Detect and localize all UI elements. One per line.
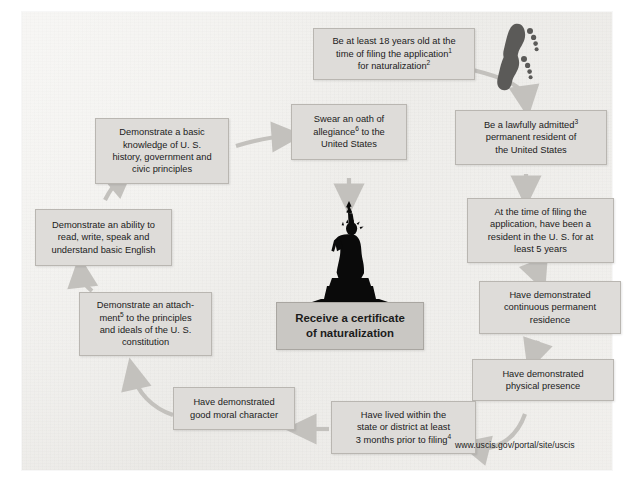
diagram-canvas: Be at least 18 years old at thetime of f… bbox=[0, 0, 632, 486]
node-attachment-constitution-label: Demonstrate an attach-ment5 to the princ… bbox=[97, 299, 194, 349]
footprints-icon bbox=[489, 18, 561, 98]
node-lawful-admission-label: Be a lawfully admitted3permanent residen… bbox=[484, 119, 578, 156]
arrow-attachment-to-english bbox=[81, 272, 92, 291]
arrow-continuous-to-physical bbox=[533, 341, 538, 356]
arrow-residency-to-continuous bbox=[534, 263, 539, 276]
source-url[interactable]: www.uscis.gov/portal/site/uscis bbox=[455, 440, 575, 450]
node-residency-5-years[interactable]: At the time of filing theapplication, ha… bbox=[467, 198, 614, 263]
node-certificate-label: Receive a certificateof naturalization bbox=[295, 311, 405, 341]
node-civics-knowledge-label: Demonstrate a basicknowledge of U. S.his… bbox=[112, 126, 211, 176]
node-residency-5-years-label: At the time of filing theapplication, ha… bbox=[488, 206, 594, 256]
statue-of-liberty-icon bbox=[302, 198, 398, 310]
node-civics-knowledge[interactable]: Demonstrate a basicknowledge of U. S.his… bbox=[95, 118, 229, 184]
node-physical-presence-label: Have demonstratedphysical presence bbox=[502, 368, 583, 393]
node-good-moral-character[interactable]: Have demonstratedgood moral character bbox=[173, 387, 295, 430]
node-oath-of-allegiance[interactable]: Swear an oath ofallegiance6 to theUnited… bbox=[291, 104, 407, 160]
node-state-district-label: Have lived within thestate or district a… bbox=[356, 409, 451, 446]
node-certificate[interactable]: Receive a certificateof naturalization bbox=[276, 302, 424, 350]
node-english-ability[interactable]: Demonstrate an ability toread, write, sp… bbox=[35, 209, 172, 266]
node-attachment-constitution[interactable]: Demonstrate an attach-ment5 to the princ… bbox=[79, 292, 212, 356]
node-lawful-admission[interactable]: Be a lawfully admitted3permanent residen… bbox=[455, 110, 607, 165]
node-age[interactable]: Be at least 18 years old at thetime of f… bbox=[313, 28, 475, 80]
node-good-moral-character-label: Have demonstratedgood moral character bbox=[190, 396, 278, 421]
node-oath-of-allegiance-label: Swear an oath ofallegiance6 to theUnited… bbox=[313, 113, 384, 150]
node-age-label: Be at least 18 years old at thetime of f… bbox=[332, 35, 455, 72]
node-continuous-residence-label: Have demonstratedcontinuous permanentres… bbox=[504, 289, 596, 326]
node-english-ability-label: Demonstrate an ability toread, write, sp… bbox=[51, 219, 155, 256]
arrow-civics-to-oath bbox=[236, 136, 287, 146]
arrow-moral-to-attachment bbox=[133, 374, 173, 415]
node-continuous-residence[interactable]: Have demonstratedcontinuous permanentres… bbox=[479, 281, 621, 334]
node-physical-presence[interactable]: Have demonstratedphysical presence bbox=[472, 359, 614, 401]
